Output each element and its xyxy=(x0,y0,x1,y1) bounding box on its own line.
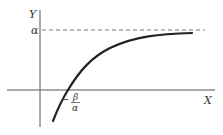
x-axis-label: X xyxy=(203,94,213,107)
x-intercept-numerator: β xyxy=(72,92,78,102)
x-intercept-denominator: α xyxy=(72,103,78,113)
x-intercept-minus: − xyxy=(61,94,69,105)
y-axis-label: Y xyxy=(29,8,38,21)
diagram-canvas: Y α X − β α xyxy=(0,0,223,135)
asymptote-label: α xyxy=(31,24,39,37)
